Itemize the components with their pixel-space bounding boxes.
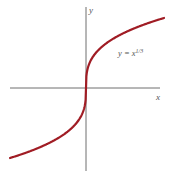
x-axis-label: x — [155, 92, 160, 102]
curve-annotation-base: y = x — [117, 48, 136, 58]
cube-root-chart: y x y = x1/3 — [0, 0, 175, 178]
curve-annotation: y = x1/3 — [117, 48, 143, 59]
curve-annotation-exponent: 1/3 — [136, 48, 144, 54]
y-axis-label: y — [88, 5, 93, 15]
